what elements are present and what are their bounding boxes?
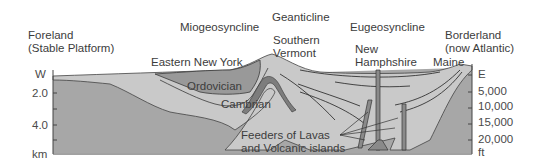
right-axis-tick-10000: 10,000	[478, 100, 513, 113]
right-axis-direction: E	[478, 68, 486, 81]
right-axis-tick-15000: 15,000	[478, 116, 513, 129]
label-southern-vermont: Southern	[273, 34, 320, 47]
left-axis-tick-2: 2.0	[32, 87, 48, 100]
right-axis-tick-20000: 20,000	[478, 133, 513, 146]
label-eastern-new-york: Eastern New York	[151, 56, 242, 69]
label-southern-vermont-2: Vermont	[273, 47, 316, 60]
label-borderland: Borderland	[445, 29, 501, 42]
left-axis-tick-4: 4.0	[32, 119, 48, 132]
left-axis-direction: W	[35, 68, 46, 81]
label-geanticline: Geanticline	[272, 11, 330, 24]
right-axis-unit: ft	[478, 146, 484, 159]
label-new-hampshire: New	[355, 43, 378, 56]
label-borderland-sub: (now Atlantic)	[445, 42, 514, 55]
label-feeders-2: and Volcanic islands	[241, 142, 345, 155]
label-eugeosyncline: Eugeosyncline	[350, 21, 425, 34]
label-new-hampshire-2: Hamphshire	[355, 56, 417, 69]
label-foreland-sub: (Stable Platform)	[28, 42, 114, 55]
label-cambrian: Cambrian	[221, 98, 271, 111]
label-feeders: Feeders of Lavas	[241, 129, 330, 142]
label-miogeosyncline: Miogeosyncline	[180, 21, 259, 34]
label-ordovician: Ordovician	[187, 80, 242, 93]
left-axis-unit: km	[32, 148, 47, 161]
label-maine: Maine	[433, 56, 464, 69]
right-axis-tick-5000: 5,000	[478, 85, 507, 98]
label-foreland: Foreland	[28, 29, 73, 42]
